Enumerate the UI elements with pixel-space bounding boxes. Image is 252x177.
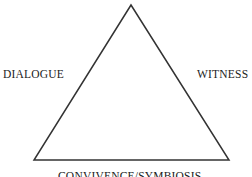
triangle-shape: [34, 5, 229, 160]
label-witness: WITNESS: [197, 68, 248, 80]
label-convivence-symbiosis: CONVIVENCE/SYMBIOSIS: [58, 170, 201, 177]
triangle-diagram: [0, 0, 252, 177]
label-dialogue: DIALOGUE: [3, 68, 64, 80]
